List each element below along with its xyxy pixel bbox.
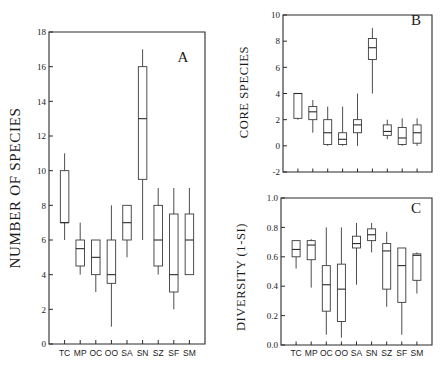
a-x-label: OC <box>89 348 102 358</box>
a-y-tick-label: 18 <box>37 27 47 37</box>
a-box-sm <box>185 188 194 275</box>
a-box-oc <box>92 240 101 292</box>
c-x-label: SZ <box>381 348 392 358</box>
panel-b-y-ticks: -20246810 <box>271 10 287 177</box>
panel-b-letter: B <box>411 12 421 28</box>
a-x-label: OO <box>105 348 119 358</box>
c-y-tick-label: 1.0 <box>267 193 279 203</box>
c-x-label: MP <box>305 348 318 358</box>
a-x-label: SF <box>168 348 179 358</box>
panel-b: CORE SPECIES B -20246810 <box>237 10 432 177</box>
a-box-sf <box>170 188 179 309</box>
c-box-oo <box>337 227 345 337</box>
panel-a: NUMBER OF SPECIES A 024681012141618 TCMP… <box>7 27 205 358</box>
panel-c: DIVERSITY (1-SI) C 0.00.20.40.60.81.0 TC… <box>234 193 432 358</box>
b-box-sz <box>383 120 391 140</box>
box-iqr <box>398 248 406 302</box>
c-y-tick-label: 0.4 <box>267 281 279 291</box>
panel-c-y-axis-label: DIVERSITY (1-SI) <box>234 223 248 331</box>
b-box-oc <box>324 107 332 146</box>
a-y-tick-label: 2 <box>42 305 47 315</box>
panel-b-y-axis-label: CORE SPECIES <box>237 46 251 138</box>
a-y-tick-label: 14 <box>37 97 47 107</box>
box-iqr <box>294 94 302 119</box>
panel-a-y-ticks: 024681012141618 <box>37 27 53 349</box>
b-box-sm <box>413 118 421 145</box>
panel-a-frame <box>49 32 205 344</box>
box-iqr <box>322 266 330 312</box>
box-iqr <box>154 205 163 266</box>
panel-c-y-ticks: 0.00.20.40.60.81.0 <box>267 193 285 350</box>
b-y-tick-label: 0 <box>276 141 281 151</box>
box-iqr <box>324 120 332 145</box>
c-box-oc <box>322 227 330 334</box>
b-box-sn <box>368 28 376 93</box>
a-box-tc <box>60 153 69 240</box>
c-box-sf <box>398 248 406 335</box>
c-y-tick-label: 0.2 <box>267 311 278 321</box>
a-x-label: SA <box>121 348 133 358</box>
box-iqr <box>339 133 347 145</box>
box-iqr <box>60 171 69 223</box>
box-iqr <box>76 240 85 266</box>
box-iqr <box>413 125 421 143</box>
c-x-label: OO <box>335 348 349 358</box>
a-box-oo <box>107 205 116 326</box>
b-y-tick-label: 6 <box>276 63 281 73</box>
b-y-tick-label: 2 <box>276 115 281 125</box>
box-iqr <box>354 120 362 133</box>
b-box-oo <box>339 107 347 146</box>
box-iqr <box>292 241 300 257</box>
figure-container: NUMBER OF SPECIES A 024681012141618 TCMP… <box>0 0 445 382</box>
box-iqr <box>170 214 179 292</box>
panel-a-boxes <box>60 49 193 326</box>
b-box-mp <box>309 100 317 133</box>
a-box-mp <box>76 223 85 275</box>
panel-c-x-labels: TCMPOCOOSASNSZSFSM <box>290 348 423 358</box>
a-y-tick-label: 16 <box>37 62 47 72</box>
c-x-label: TC <box>290 348 301 358</box>
box-iqr <box>309 107 317 120</box>
box-iqr <box>138 67 147 180</box>
box-iqr <box>413 254 421 280</box>
panel-b-boxes <box>294 28 421 146</box>
a-x-label: SN <box>137 348 149 358</box>
panel-c-letter: C <box>411 200 421 216</box>
box-iqr <box>337 264 345 321</box>
a-box-sn <box>138 49 147 240</box>
a-y-tick-label: 0 <box>42 339 47 349</box>
box-iqr <box>398 128 406 145</box>
panel-a-y-axis-label: NUMBER OF SPECIES <box>7 107 23 268</box>
a-box-sa <box>123 205 132 257</box>
panel-a-x-ticks <box>65 340 190 344</box>
box-iqr <box>353 236 361 248</box>
box-iqr <box>383 125 391 135</box>
b-y-tick-label: 10 <box>271 10 281 20</box>
c-box-sn <box>368 223 376 252</box>
a-x-label: MP <box>74 348 87 358</box>
boxplot-figure-svg: NUMBER OF SPECIES A 024681012141618 TCMP… <box>0 0 445 382</box>
b-y-tick-label: 8 <box>276 36 281 46</box>
box-iqr <box>107 240 116 283</box>
panel-c-boxes <box>292 223 421 338</box>
a-plot-frame <box>49 32 205 344</box>
c-x-label: SA <box>351 348 363 358</box>
a-y-tick-label: 6 <box>42 235 47 245</box>
b-y-tick-label: -2 <box>273 167 281 177</box>
a-y-tick-label: 10 <box>37 166 47 176</box>
a-box-sz <box>154 188 163 275</box>
b-box-sf <box>398 118 406 145</box>
c-box-sm <box>413 252 421 293</box>
box-iqr <box>185 214 194 275</box>
a-x-label: SM <box>183 348 196 358</box>
c-box-tc <box>292 241 300 269</box>
panel-a-x-labels: TCMPOCOOSASNSZSFSM <box>59 348 196 358</box>
a-y-tick-label: 8 <box>42 201 47 211</box>
c-box-sz <box>383 232 391 307</box>
c-y-tick-label: 0.0 <box>267 340 279 350</box>
panel-a-letter: A <box>178 49 189 65</box>
box-iqr <box>368 39 376 60</box>
a-x-label: SZ <box>153 348 164 358</box>
c-box-mp <box>307 239 315 288</box>
c-x-label: SM <box>411 348 424 358</box>
